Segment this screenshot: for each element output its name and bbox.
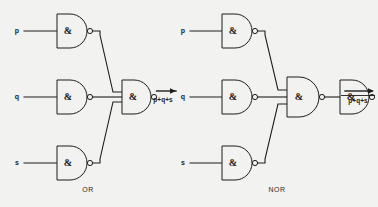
wire-p-to-nand — [93, 31, 122, 92]
inversion-bubble-icon — [252, 94, 257, 99]
output-arrowhead-icon — [368, 88, 374, 93]
input-label-p: p — [15, 27, 19, 35]
logic-diagram-root: p & q & s — [0, 0, 378, 207]
gate-symbol-ampersand: & — [295, 91, 303, 102]
output-label-nor: p+q+s — [348, 97, 368, 105]
wire-s-to-nand — [258, 104, 287, 163]
wire-p-to-nand — [258, 31, 287, 90]
circuit-caption-or: OR — [82, 186, 94, 193]
gate-symbol-ampersand: & — [229, 91, 237, 102]
gate-symbol-ampersand: & — [129, 91, 137, 102]
circuit-caption-nor: NOR — [268, 186, 285, 193]
gate-or-inv-q: & — [57, 80, 93, 114]
output-label-or: p+q+s — [153, 96, 173, 104]
input-label-s: s — [181, 159, 185, 166]
input-label-s: s — [15, 159, 19, 166]
inversion-bubble-icon — [87, 28, 92, 33]
inversion-bubble-icon — [252, 28, 257, 33]
input-label-q: q — [181, 93, 185, 101]
output-arrowhead-icon — [170, 88, 176, 93]
gate-nor-inv-s: & — [222, 146, 258, 180]
gate-or-inv-p: & — [57, 14, 93, 48]
gate-or-nand-3: & — [122, 80, 157, 114]
gate-nor-inv-p: & — [222, 14, 258, 48]
inversion-bubble-icon — [319, 94, 324, 99]
or-circuit: p & q & s — [15, 14, 176, 193]
wire-s-to-nand — [93, 102, 122, 163]
inversion-bubble-icon — [87, 94, 92, 99]
gate-symbol-ampersand: & — [229, 25, 237, 36]
circuit-canvas: p & q & s — [0, 0, 378, 207]
input-label-q: q — [15, 93, 19, 101]
gate-nor-nand-3: & — [287, 77, 325, 117]
gate-symbol-ampersand: & — [64, 25, 72, 36]
inversion-bubble-icon — [87, 160, 92, 165]
nor-circuit: p & q & s — [181, 14, 375, 193]
gate-or-inv-s: & — [57, 146, 93, 180]
inversion-bubble-icon — [252, 160, 257, 165]
gate-nor-inv-q: & — [222, 80, 258, 114]
gate-symbol-ampersand: & — [64, 91, 72, 102]
input-label-p: p — [181, 27, 185, 35]
gate-symbol-ampersand: & — [229, 157, 237, 168]
gate-symbol-ampersand: & — [64, 157, 72, 168]
